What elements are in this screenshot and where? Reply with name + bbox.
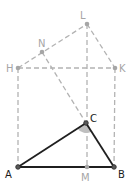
segment-CB: [86, 123, 114, 167]
point-H: [16, 66, 21, 71]
label-K: K: [119, 63, 126, 74]
segment-HL: [18, 24, 87, 68]
label-A: A: [5, 169, 12, 180]
label-B: B: [118, 169, 125, 180]
point-C: [84, 121, 89, 126]
segment-KB: [114, 68, 115, 167]
point-M: [85, 165, 90, 170]
label-N: N: [38, 38, 45, 49]
point-N: [40, 50, 45, 55]
label-M: M: [81, 172, 90, 183]
point-A: [16, 165, 21, 170]
point-L: [85, 22, 90, 27]
segment-AC: [18, 123, 86, 167]
point-K: [113, 66, 118, 71]
label-L: L: [80, 10, 86, 21]
point-B: [112, 165, 117, 170]
geometry-diagram: L N H K C A M B: [0, 0, 132, 189]
segment-LK: [87, 24, 115, 68]
label-H: H: [6, 63, 14, 74]
segment-NC: [42, 52, 86, 123]
label-C: C: [90, 113, 97, 124]
